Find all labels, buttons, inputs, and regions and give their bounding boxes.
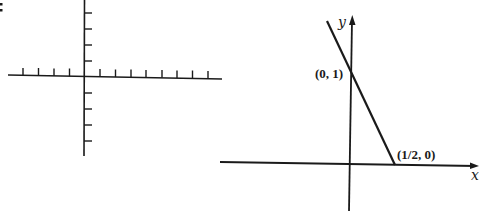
figure-canvas: y x (0, 1) (1/2, 0) [0,0,479,211]
plotted-line [327,21,395,165]
blank-axes [8,0,222,156]
blank-y-axis [84,0,85,156]
line-graph [220,15,479,211]
y-axis [349,20,352,211]
x-intercept-label: (1/2, 0) [397,147,435,162]
x-axis [220,162,476,166]
y-axis-label: y [337,14,347,30]
colon-mark [0,3,3,12]
figure: y x (0, 1) (1/2, 0) [0,0,479,211]
y-intercept-label: (0, 1) [315,66,343,81]
y-axis-arrow-icon [349,15,356,25]
x-axis-label: x [471,167,479,183]
